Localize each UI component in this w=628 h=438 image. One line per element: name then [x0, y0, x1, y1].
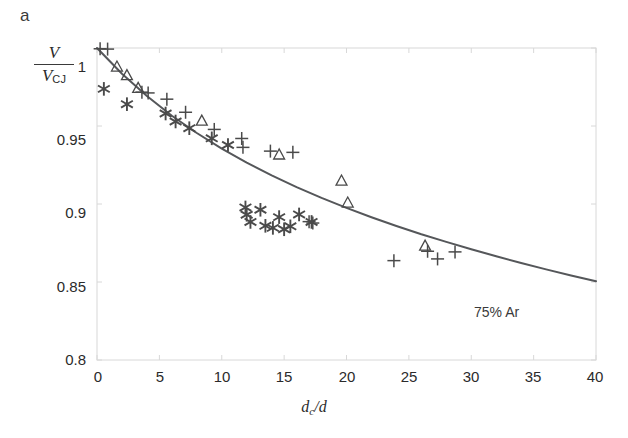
axis-ticks: [97, 48, 596, 360]
figure-panel: a V VCJ dc/d 1 0.95 0.9 0.85 0.8 0 5 10 …: [0, 0, 628, 438]
fit-curve: [97, 48, 596, 281]
data-markers: [94, 42, 462, 267]
plot-frame: [97, 48, 596, 360]
plot-area: [0, 0, 628, 438]
